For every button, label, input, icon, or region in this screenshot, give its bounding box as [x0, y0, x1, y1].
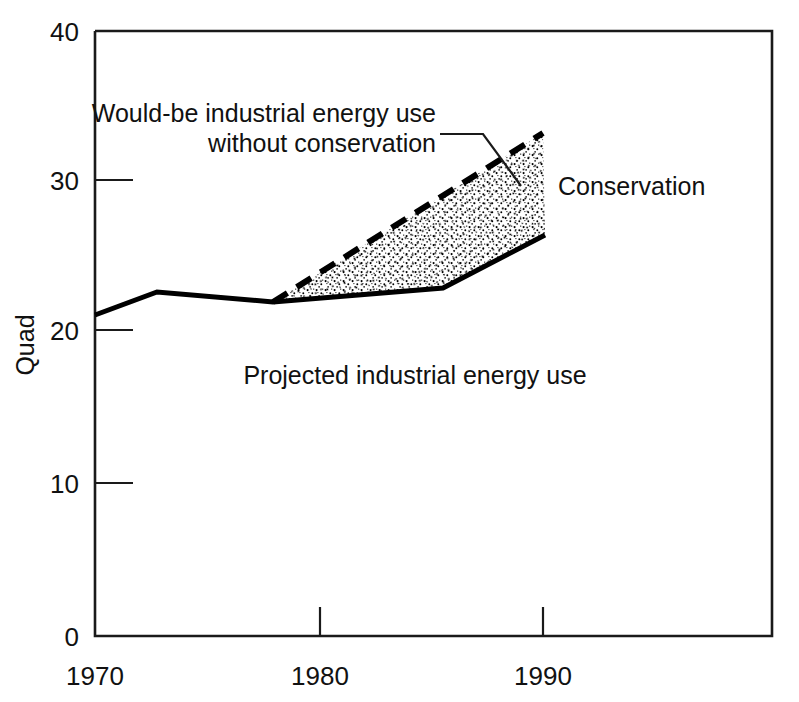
annotation-would-be-line2: without conservation: [207, 129, 436, 157]
annotation-projected: Projected industrial energy use: [243, 361, 586, 389]
y-tick-label-0: 0: [65, 622, 79, 652]
y-tick-label-30: 30: [50, 166, 79, 196]
energy-use-chart: 40 30 20 10 0 1970 1980 1990 Quad: [0, 0, 799, 702]
x-tick-label-1990: 1990: [514, 661, 572, 691]
y-axis-title: Quad: [11, 314, 39, 375]
x-tick-label-1970: 1970: [66, 661, 124, 691]
chart-canvas: 40 30 20 10 0 1970 1980 1990 Quad: [0, 0, 799, 702]
x-axis-ticks: [320, 607, 543, 636]
x-tick-label-1980: 1980: [291, 661, 349, 691]
annotation-would-be-line1: Would-be industrial energy use: [92, 99, 436, 127]
annotation-conservation: Conservation: [558, 172, 705, 200]
y-tick-label-20: 20: [50, 316, 79, 346]
y-axis-ticks: [95, 180, 133, 483]
y-tick-label-10: 10: [50, 469, 79, 499]
y-tick-label-40: 40: [50, 17, 79, 47]
